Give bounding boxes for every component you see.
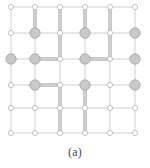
lattice-node-large — [80, 28, 90, 38]
lattice-node-large — [30, 54, 40, 64]
lattice-node-small — [57, 130, 62, 135]
lattice-node-small — [132, 4, 137, 9]
lattice-node-small — [57, 30, 62, 35]
lattice-node-small — [107, 4, 112, 9]
lattice-node-small — [107, 82, 112, 87]
lattice-node-small — [8, 82, 13, 87]
lattice-node-small — [82, 4, 87, 9]
node-layer — [6, 4, 140, 135]
lattice-node-small — [8, 105, 13, 110]
lattice-node-large — [6, 54, 16, 64]
lattice-node-large — [130, 54, 140, 64]
lattice-node-small — [8, 30, 13, 35]
lattice-node-large — [80, 80, 90, 90]
lattice-node-large — [30, 80, 40, 90]
lattice-diagram — [0, 0, 150, 145]
lattice-node-small — [32, 105, 37, 110]
lattice-node-small — [57, 4, 62, 9]
lattice-node-small — [82, 130, 87, 135]
lattice-node-small — [107, 56, 112, 61]
lattice-node-large — [130, 80, 140, 90]
lattice-node-large — [130, 28, 140, 38]
lattice-node-small — [107, 130, 112, 135]
figure-container: (a) — [0, 0, 150, 168]
lattice-node-small — [32, 130, 37, 135]
lattice-node-large — [30, 28, 40, 38]
lattice-node-small — [8, 130, 13, 135]
bold-edge-layer — [35, 7, 110, 133]
thin-edge-layer — [11, 7, 135, 133]
lattice-node-small — [8, 4, 13, 9]
lattice-node-small — [132, 130, 137, 135]
lattice-node-small — [57, 82, 62, 87]
lattice-node-small — [107, 30, 112, 35]
lattice-node-small — [132, 105, 137, 110]
figure-caption: (a) — [0, 145, 150, 160]
lattice-node-large — [80, 54, 90, 64]
lattice-node-small — [32, 4, 37, 9]
lattice-node-small — [57, 105, 62, 110]
lattice-node-small — [82, 105, 87, 110]
lattice-node-small — [107, 105, 112, 110]
lattice-node-small — [57, 56, 62, 61]
